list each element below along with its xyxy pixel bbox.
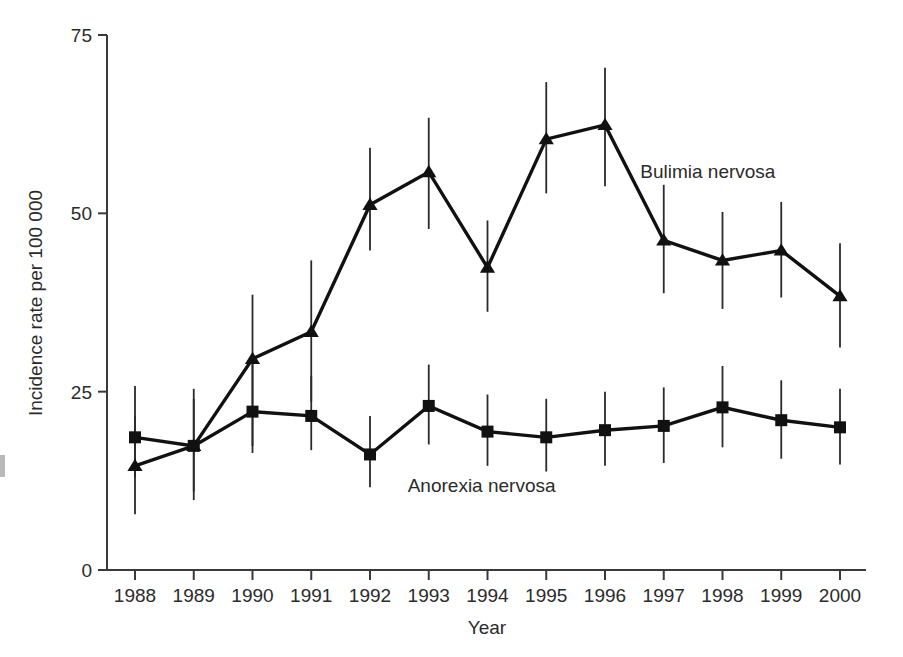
y-tick-label-50: 50 [71,203,92,224]
page-edge-artifact [0,455,5,477]
data-point-anorexia-nervosa-1994 [482,426,494,438]
x-axis-ticks [135,570,840,580]
y-tick-label-75: 75 [71,25,92,46]
data-point-bulimia-nervosa-1997 [656,233,671,245]
series-label-anorexia-nervosa: Anorexia nervosa [408,475,556,496]
x-tick-label-1994: 1994 [466,585,509,606]
data-point-bulimia-nervosa-1993 [421,165,436,177]
x-tick-label-1989: 1989 [173,585,215,606]
x-tick-label-1990: 1990 [231,585,273,606]
data-point-anorexia-nervosa-1991 [305,410,317,422]
data-point-bulimia-nervosa-1996 [597,118,612,130]
data-point-bulimia-nervosa-1994 [480,260,495,272]
data-point-anorexia-nervosa-1995 [540,431,552,443]
data-point-bulimia-nervosa-1999 [774,243,789,255]
data-point-anorexia-nervosa-1997 [658,420,670,432]
y-axis-ticks [98,35,107,570]
data-point-anorexia-nervosa-1999 [775,414,787,426]
series-label-bulimia-nervosa: Bulimia nervosa [640,161,776,182]
x-tick-label-1995: 1995 [525,585,567,606]
x-tick-label-1998: 1998 [701,585,743,606]
data-point-anorexia-nervosa-1993 [423,400,435,412]
x-tick-label-1993: 1993 [408,585,450,606]
x-tick-label-1992: 1992 [349,585,391,606]
x-tick-label-1988: 1988 [114,585,156,606]
data-point-bulimia-nervosa-1992 [362,198,377,210]
y-tick-label-25: 25 [71,382,92,403]
data-point-anorexia-nervosa-1990 [247,406,259,418]
data-point-anorexia-nervosa-1998 [717,401,729,413]
data-point-anorexia-nervosa-1988 [129,431,141,443]
data-point-anorexia-nervosa-1992 [364,448,376,460]
x-tick-label-1991: 1991 [290,585,332,606]
x-axis-tick-labels: 1988198919901991199219931994199519961997… [114,585,861,606]
x-tick-label-1996: 1996 [584,585,626,606]
data-point-anorexia-nervosa-1989 [188,440,200,452]
data-point-bulimia-nervosa-1991 [304,325,319,337]
chart-figure: 0255075 19881989199019911992199319941995… [0,0,903,657]
y-axis-title: Incidence rate per 100 000 [25,190,46,416]
y-tick-label-0: 0 [81,560,92,581]
x-tick-label-2000: 2000 [819,585,861,606]
data-point-anorexia-nervosa-1996 [599,424,611,436]
x-axis-title: Year [468,617,507,638]
data-point-anorexia-nervosa-2000 [834,421,846,433]
x-tick-label-1997: 1997 [643,585,685,606]
incidence-rate-line-chart: 0255075 19881989199019911992199319941995… [0,0,903,657]
y-axis-tick-labels: 0255075 [71,25,92,581]
x-tick-label-1999: 1999 [760,585,802,606]
